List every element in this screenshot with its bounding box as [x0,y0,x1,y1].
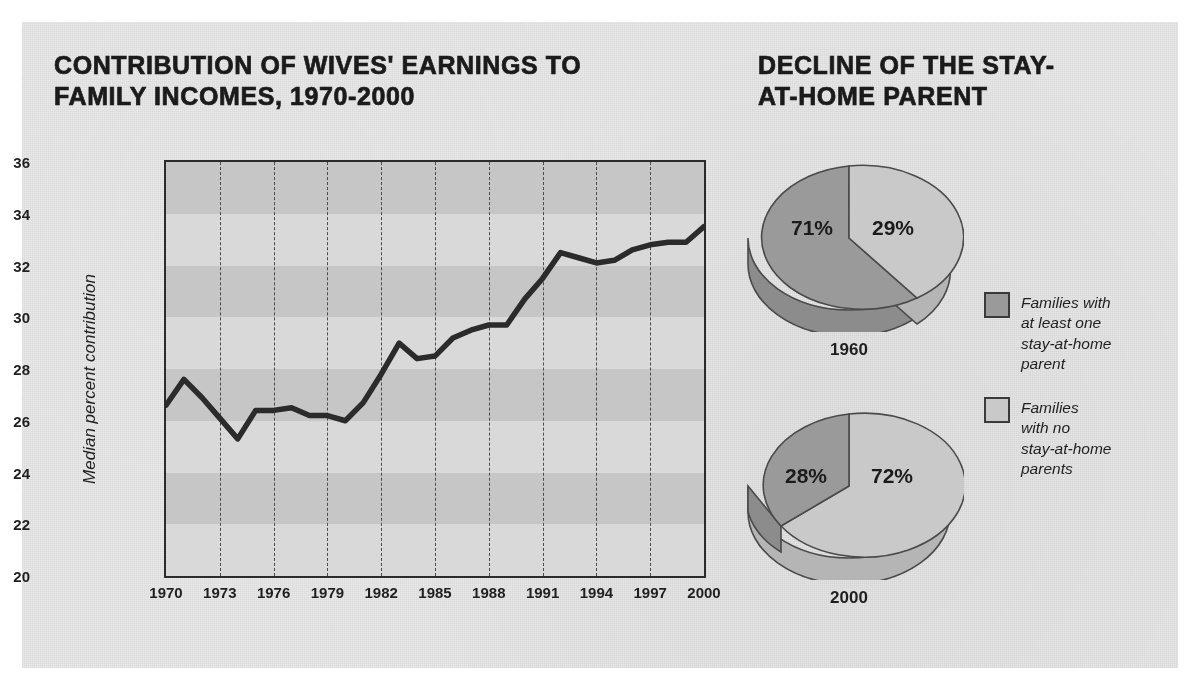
x-tick-label: 1988 [459,584,519,601]
pie-1960-caption: 1960 [734,340,964,360]
pie-2000-caption: 2000 [734,588,964,608]
x-tick-label: 1973 [190,584,250,601]
y-tick-label: 22 [0,516,30,533]
y-axis-title: Median percent contribution [80,249,100,509]
pie-2000-light-value: 72% [871,464,913,488]
y-tick-label: 24 [0,464,30,481]
y-tick-label: 26 [0,412,30,429]
pie-section: 71% 29% 1960 28% [722,22,1178,668]
y-tick-label: 20 [0,568,30,585]
plot-area [164,160,706,578]
gridline [704,162,705,576]
y-tick-label: 30 [0,309,30,326]
pie-1960-dark-value: 71% [791,216,833,240]
y-tick-label: 36 [0,154,30,171]
pie-1960-graphic [734,152,964,332]
x-tick-label: 1997 [620,584,680,601]
legend-item: Families with no stay-at-home parents [984,397,1174,480]
x-tick-label: 1976 [244,584,304,601]
legend-label: Families with no stay-at-home parents [1021,397,1111,480]
line-chart: Median percent contribution 363432302826… [22,22,722,668]
figure-panel: CONTRIBUTION OF WIVES' EARNINGS TO FAMIL… [22,22,1178,668]
legend-swatch-light [984,397,1010,423]
legend-swatch-dark [984,292,1010,318]
pie-chart-2000: 28% 72% 2000 [734,400,964,615]
y-tick-label: 28 [0,361,30,378]
pie-2000-graphic [734,400,964,580]
legend-item: Families with at least one stay-at-home … [984,292,1174,375]
y-tick-label: 32 [0,257,30,274]
x-tick-label: 1985 [405,584,465,601]
legend-label: Families with at least one stay-at-home … [1021,292,1111,375]
legend: Families with at least one stay-at-home … [984,292,1174,502]
pie-chart-1960: 71% 29% 1960 [734,152,964,367]
data-line [166,162,704,576]
x-tick-label: 1982 [351,584,411,601]
pie-2000-dark-value: 28% [785,464,827,488]
x-tick-label: 1994 [566,584,626,601]
x-tick-label: 1991 [513,584,573,601]
x-tick-label: 1970 [136,584,196,601]
x-tick-label: 1979 [297,584,357,601]
y-tick-label: 34 [0,205,30,222]
pie-1960-light-value: 29% [872,216,914,240]
